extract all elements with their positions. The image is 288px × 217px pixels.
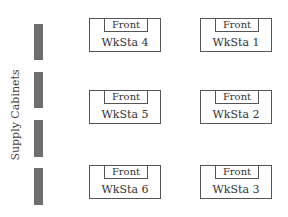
supply-cabinets-label: Supply Cabinets [9, 69, 22, 160]
supply-cabinet [34, 72, 43, 108]
workstation-6: Front WkSta 6 [89, 165, 161, 199]
front-tab: Front [104, 90, 148, 104]
workstation-label: WkSta 6 [90, 183, 160, 196]
workstation-3: Front WkSta 3 [200, 165, 272, 199]
front-tab: Front [215, 165, 259, 179]
front-tab: Front [215, 18, 259, 32]
workstation-label: WkSta 5 [90, 108, 160, 121]
front-tab: Front [215, 90, 259, 104]
workstation-label: WkSta 3 [201, 183, 271, 196]
workstation-label: WkSta 1 [201, 36, 271, 49]
workstation-5: Front WkSta 5 [89, 90, 161, 124]
front-tab: Front [104, 18, 148, 32]
workstation-label: WkSta 4 [90, 36, 160, 49]
supply-cabinet [34, 24, 43, 60]
supply-cabinet [34, 168, 43, 205]
workstation-1: Front WkSta 1 [200, 18, 272, 52]
workstation-2: Front WkSta 2 [200, 90, 272, 124]
supply-cabinet [34, 120, 43, 157]
workstation-label: WkSta 2 [201, 108, 271, 121]
workstation-4: Front WkSta 4 [89, 18, 161, 52]
front-tab: Front [104, 165, 148, 179]
